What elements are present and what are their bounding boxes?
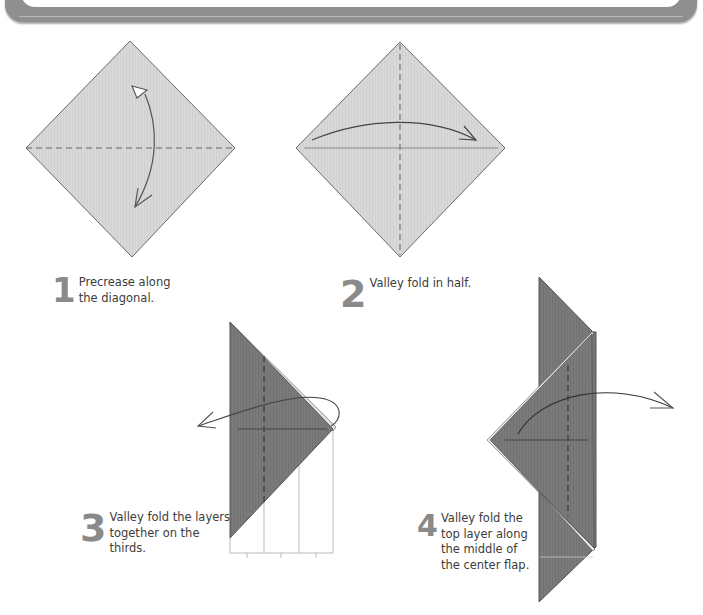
step-1-text: Precrease along the diagonal. bbox=[79, 275, 171, 306]
step-2-diagram bbox=[296, 42, 505, 257]
step-3-text-line: Valley fold the layers bbox=[109, 510, 230, 524]
step-3-number: 3 bbox=[80, 510, 105, 546]
step-1-paper-square bbox=[26, 41, 235, 257]
step-4-caption: 4 Valley fold the top layer along the mi… bbox=[417, 511, 529, 573]
step-2-text-line: Valley fold in half. bbox=[369, 276, 471, 290]
step-2-number: 2 bbox=[340, 276, 365, 312]
step-2-text: Valley fold in half. bbox=[369, 276, 471, 292]
step-3-text-line: together on the bbox=[109, 526, 199, 540]
step-1-diagram bbox=[26, 41, 235, 257]
step-1-text-line: Precrease along bbox=[79, 275, 171, 289]
step-3-folded-triangle bbox=[230, 322, 333, 538]
step-2-caption: 2 Valley fold in half. bbox=[340, 276, 471, 312]
step-1-caption: 1 Precrease along the diagonal. bbox=[52, 275, 170, 306]
step-4-text: Valley fold the top layer along the midd… bbox=[441, 511, 529, 573]
step-1-text-line: the diagonal. bbox=[79, 291, 155, 305]
step-4-text-line: Valley fold the bbox=[441, 511, 523, 525]
step-3-caption: 3 Valley fold the layers together on the… bbox=[80, 510, 230, 557]
step-4-text-line: the center flap. bbox=[441, 558, 529, 572]
step-4-number: 4 bbox=[417, 511, 437, 541]
step-4-text-line: the middle of bbox=[441, 542, 518, 556]
step-1-number: 1 bbox=[52, 275, 75, 305]
step-3-text-line: thirds. bbox=[109, 541, 145, 555]
step-3-text: Valley fold the layers together on the t… bbox=[109, 510, 230, 557]
step-4-text-line: top layer along bbox=[441, 527, 528, 541]
